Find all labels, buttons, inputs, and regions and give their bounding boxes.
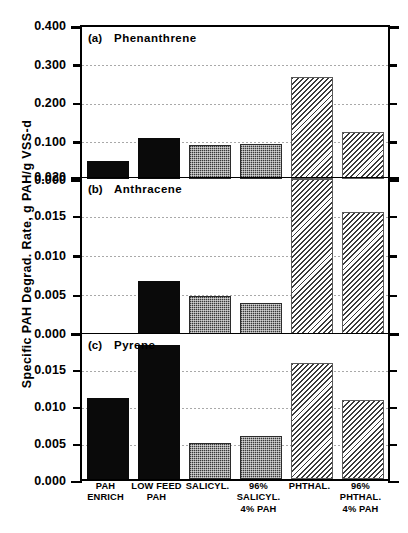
figure-bar-chart: Specific PAH Degrad. Rate, g PAH/g VSS-d… xyxy=(0,0,408,533)
y-tick-left xyxy=(73,141,82,143)
panel-caption-phenanthrene: (a)Phenanthrene xyxy=(88,32,197,44)
bar-b-4 xyxy=(291,179,333,334)
gridline xyxy=(82,104,388,105)
plot-area-phenanthrene xyxy=(82,27,388,179)
y-tick-label: 0.010 xyxy=(6,400,66,414)
bar-c-0 xyxy=(87,398,129,479)
y-tick-label: 0.000 xyxy=(6,474,66,488)
y-tick-label: 0.400 xyxy=(6,19,66,33)
bar-c-1 xyxy=(138,345,180,479)
y-tick-right xyxy=(388,141,397,143)
y-tick-left xyxy=(73,444,82,446)
panel-caption-pyrene: (c)Pyrene xyxy=(88,339,155,351)
y-tick-label: 0.100 xyxy=(6,135,66,149)
y-tick-label: 0.015 xyxy=(6,363,66,377)
bar-a-1 xyxy=(138,138,180,179)
panel-letter: (b) xyxy=(88,183,114,195)
y-tick-left xyxy=(73,407,82,409)
bar-a-2 xyxy=(189,145,231,179)
y-tick-left xyxy=(71,177,82,180)
panel-phenanthrene: (a)Phenanthrene 0.0000.1000.2000.3000.40… xyxy=(80,25,390,179)
y-tick-left xyxy=(71,333,82,336)
y-tick-left xyxy=(73,103,82,105)
y-tick-right xyxy=(388,177,399,180)
bar-a-3 xyxy=(240,144,282,179)
y-tick-right xyxy=(388,216,397,218)
bar-a-5 xyxy=(342,132,384,179)
panel-title: Anthracene xyxy=(114,183,182,195)
bar-b-2 xyxy=(189,296,231,334)
y-tick-right xyxy=(388,333,399,336)
y-tick-label: 0.010 xyxy=(6,249,66,263)
bar-c-4 xyxy=(291,363,333,479)
y-tick-label: 0.300 xyxy=(6,58,66,72)
x-tick-label-5: 96% PHTHAL. 4% PAH xyxy=(329,481,392,515)
bar-c-5 xyxy=(342,400,384,479)
panel-title: Phenanthrene xyxy=(114,32,197,44)
bar-c-2 xyxy=(189,443,231,479)
panel-letter: (a) xyxy=(88,32,114,44)
bar-b-3 xyxy=(240,303,282,334)
y-tick-label: 0.005 xyxy=(6,437,66,451)
y-tick-right xyxy=(388,407,397,409)
y-tick-right xyxy=(388,444,397,446)
bar-b-5 xyxy=(342,212,384,334)
y-tick-left xyxy=(73,370,82,372)
y-tick-left xyxy=(73,64,82,66)
y-tick-right xyxy=(388,26,399,29)
y-tick-left xyxy=(73,255,82,257)
gridline xyxy=(82,65,388,66)
plot-area-anthracene xyxy=(82,178,388,334)
x-axis-tick-labels: PAH ENRICHLOW FEED PAHSALICYL.96% SALICY… xyxy=(80,481,386,533)
panel-anthracene: (b)Anthracene 0.0000.0050.0100.0150.020 xyxy=(80,177,390,334)
panel-pyrene: (c)Pyrene 0.0000.0050.0100.015 xyxy=(80,333,390,481)
panel-letter: (c) xyxy=(88,339,114,351)
plot-area-pyrene xyxy=(82,334,388,479)
bar-a-4 xyxy=(291,77,333,179)
panel-caption-anthracene: (b)Anthracene xyxy=(88,183,182,195)
panel-title: Pyrene xyxy=(114,339,155,351)
y-tick-right xyxy=(388,370,397,372)
y-tick-right xyxy=(388,103,397,105)
y-tick-label: 0.015 xyxy=(6,209,66,223)
y-tick-label: 0.005 xyxy=(6,288,66,302)
y-tick-left xyxy=(73,295,82,297)
y-tick-label: 0.200 xyxy=(6,96,66,110)
y-tick-label: 0.020 xyxy=(6,170,66,184)
bar-c-3 xyxy=(240,436,282,479)
y-tick-label: 0.000 xyxy=(6,327,66,341)
bar-b-1 xyxy=(138,281,180,334)
y-tick-right xyxy=(388,64,397,66)
y-tick-right xyxy=(388,255,397,257)
y-tick-left xyxy=(73,216,82,218)
y-tick-left xyxy=(71,26,82,29)
y-tick-right xyxy=(388,295,397,297)
gridline xyxy=(82,371,388,372)
